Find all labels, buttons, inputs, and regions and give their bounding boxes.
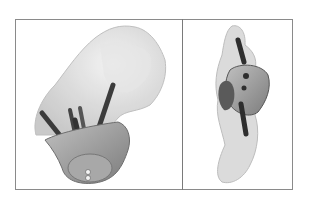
figure-illustration (0, 0, 311, 203)
